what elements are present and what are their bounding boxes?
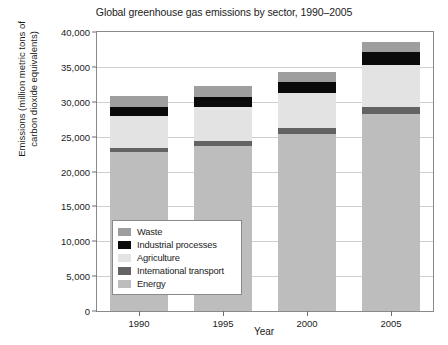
y-tick-label: 25,000 [5,131,97,142]
legend-swatch-icon [118,254,131,262]
y-tick-label: 30,000 [5,96,97,107]
chart-title: Global greenhouse gas emissions by secto… [0,6,448,18]
y-tick-label: 35,000 [5,61,97,72]
y-tick-label: 10,000 [5,236,97,247]
x-tick-mark [307,311,308,316]
chart-legend: WasteIndustrial processesAgricultureInte… [112,220,242,295]
bar-2005 [362,32,420,311]
y-tick-label: 20,000 [5,166,97,177]
y-tick-label: 40,000 [5,27,97,38]
legend-item-label: Industrial processes [137,240,217,250]
bar-segment-international-transport [194,141,252,146]
bar-segment-international-transport [362,107,420,113]
y-tick-label: 0 [5,306,97,317]
x-tick-mark [139,311,140,316]
y-tick-label: 5,000 [5,271,97,282]
chart-figure: Global greenhouse gas emissions by secto… [0,0,448,345]
bar-segment-waste [110,96,168,106]
x-axis-title: Year [96,326,432,337]
legend-item-label: International transport [137,266,224,276]
legend-item: Energy [118,277,235,290]
bar-segment-agriculture [278,93,336,128]
legend-item: Industrial processes [118,238,235,251]
legend-item-label: Agriculture [137,253,180,263]
y-tick-label: 15,000 [5,201,97,212]
bar-segment-industrial-processes [194,97,252,107]
x-tick-mark [391,311,392,316]
legend-item: Agriculture [118,251,235,264]
bar-segment-energy [362,114,420,311]
bar-segment-waste [278,72,336,82]
legend-swatch-icon [118,267,131,275]
bar-segment-industrial-processes [110,107,168,116]
legend-swatch-icon [118,280,131,288]
bar-segment-agriculture [110,116,168,148]
bar-segment-energy [278,134,336,311]
bar-segment-industrial-processes [362,52,420,65]
legend-swatch-icon [118,228,131,236]
legend-item-label: Energy [137,279,166,289]
bar-segment-agriculture [362,65,420,107]
bar-segment-waste [362,42,420,52]
legend-item-label: Waste [137,227,162,237]
bar-segment-agriculture [194,107,252,141]
bar-2000 [278,32,336,311]
legend-item: International transport [118,264,235,277]
bar-segment-international-transport [110,148,168,152]
legend-swatch-icon [118,241,131,249]
legend-item: Waste [118,225,235,238]
bar-segment-industrial-processes [278,82,336,93]
bar-segment-waste [194,86,252,96]
bar-segment-international-transport [278,128,336,134]
x-tick-mark [223,311,224,316]
